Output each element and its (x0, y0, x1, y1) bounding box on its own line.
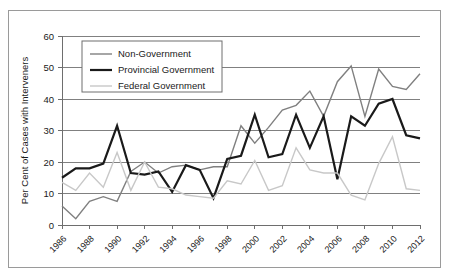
x-tick-label: 1996 (185, 233, 206, 254)
chart-figure: 0102030405060198619881990199219941996199… (0, 0, 450, 279)
y-axis-title: Per Cent of Cases with Interveners (19, 57, 30, 205)
legend-label-1: Non-Government (118, 48, 191, 59)
x-tick-label: 2004 (295, 233, 316, 254)
y-tick-label: 10 (43, 188, 54, 199)
x-tick-label: 1992 (130, 233, 151, 254)
x-tick-label: 2002 (268, 233, 289, 254)
legend-label-2: Provincial Government (118, 64, 214, 75)
y-tick-label: 60 (43, 31, 54, 42)
x-tick-label: 2006 (323, 233, 344, 254)
x-tick-label: 1998 (213, 233, 234, 254)
y-tick-label: 20 (43, 157, 54, 168)
x-tick-label: 1988 (75, 233, 96, 254)
line-chart: 0102030405060198619881990199219941996199… (0, 0, 450, 279)
x-tick-label: 2010 (378, 233, 399, 254)
x-tick-label: 2000 (240, 233, 261, 254)
y-tick-label: 30 (43, 125, 54, 136)
x-tick-label: 1994 (157, 233, 178, 254)
series-line-federal-government (62, 137, 420, 200)
y-tick-label: 50 (43, 62, 54, 73)
x-tick-label: 1986 (47, 233, 68, 254)
chart-legend: Non-GovernmentProvincial GovernmentFeder… (82, 41, 222, 92)
x-tick-label: 2012 (405, 233, 426, 254)
y-tick-label: 0 (49, 220, 54, 231)
x-tick-label: 1990 (102, 233, 123, 254)
legend-label-3: Federal Government (118, 80, 205, 91)
y-tick-label: 40 (43, 94, 54, 105)
x-tick-label: 2008 (350, 233, 371, 254)
x-axis-ticks: 1986198819901992199419961998200020022004… (47, 225, 426, 255)
